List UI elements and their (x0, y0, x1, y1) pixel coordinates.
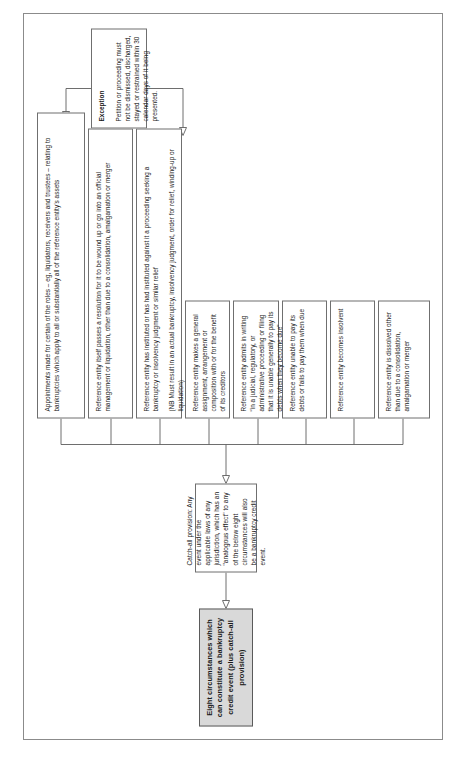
catch-all-provision-text: Catch-all provision: Any event under the… (185, 490, 268, 565)
circumstance-box-2: Reference entity becomes insolvent (330, 300, 375, 418)
diagram-canvas: Eight circumstances which can constitute… (23, 13, 443, 740)
circumstance-4-text: Reference entity admits in writing “in a… (239, 307, 284, 411)
circumstance-box-1: Reference entity is dissolved other than… (378, 300, 430, 418)
diagram-title-text: Eight circumstances which can constitute… (205, 617, 247, 717)
circumstance-box-5: Reference entity makes a general assignm… (185, 300, 230, 418)
circumstance-box-3: Reference entity unable to pay its debts… (282, 300, 327, 418)
diagram-rotation-wrapper: Eight circumstances which can constitute… (23, 13, 443, 740)
circumstance-3-text: Reference entity unable to pay its debts… (288, 307, 306, 411)
circumstance-5-text: Reference entity makes a general assignm… (191, 307, 227, 411)
circumstance-1-text: Reference entity is dissolved other than… (384, 307, 411, 411)
circumstance-8-text: Appointments made for certain of the rol… (43, 119, 61, 411)
circumstance-box-8: Appointments made for certain of the rol… (37, 112, 85, 418)
circumstance-box-6: Reference entity has instituted or has h… (136, 128, 182, 418)
circumstance-6-note: (NB Must result in an actual bankruptcy,… (167, 135, 185, 411)
exception-heading: Exception (97, 35, 106, 121)
circumstance-6-text: Reference entity has instituted or has h… (142, 135, 160, 411)
catch-all-provision-box: Catch-all provision: Any event under the… (195, 483, 257, 572)
exception-box: Exception Petition or proceeding must no… (91, 28, 147, 128)
diagram-title: Eight circumstances which can constitute… (199, 608, 253, 726)
circumstance-box-7: Reference entity itself passes a resolut… (88, 128, 133, 418)
exception-text: Petition or proceeding must not be dismi… (114, 35, 159, 121)
circumstance-box-4: Reference entity admits in writing “in a… (233, 300, 279, 418)
circumstance-2-text: Reference entity becomes insolvent (336, 307, 345, 411)
circumstance-7-text: Reference entity itself passes a resolut… (94, 135, 112, 411)
